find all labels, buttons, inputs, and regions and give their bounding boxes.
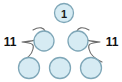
bottom-circle-1[interactable] <box>19 58 40 79</box>
right-side-label: 11 <box>106 35 119 49</box>
bottom-circle-3[interactable] <box>81 58 102 79</box>
middle-row-group <box>34 31 88 51</box>
diagram-canvas: 11 11 1 <box>0 0 122 82</box>
middle-circle-1[interactable] <box>34 31 54 51</box>
middle-circle-2[interactable] <box>68 31 88 51</box>
number-bond-diagram: 11 11 1 <box>0 0 122 82</box>
left-side-label: 11 <box>4 35 17 49</box>
bottom-row-group <box>19 58 102 79</box>
bottom-circle-2[interactable] <box>50 58 71 79</box>
top-row-group: 1 <box>55 4 74 23</box>
top-circle-1-label: 1 <box>61 8 67 20</box>
